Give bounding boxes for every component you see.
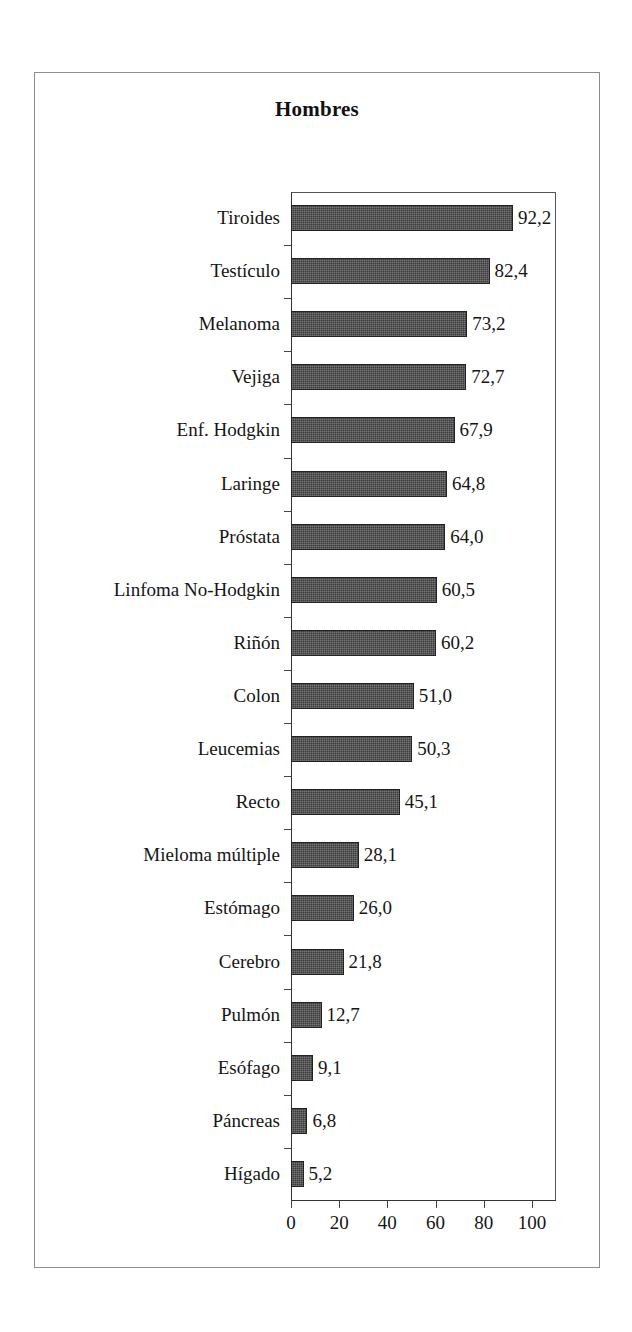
bar-row: Recto45,1 (35, 776, 599, 828)
bar (291, 789, 400, 815)
x-axis-tick-labels: 020406080100 (291, 1212, 556, 1240)
x-axis-tick (532, 1201, 533, 1208)
category-label: Colon (35, 670, 291, 722)
bar-row: Cerebro21,8 (35, 935, 599, 987)
bar-row: Testículo82,4 (35, 245, 599, 297)
bar-row: Laringe64,8 (35, 458, 599, 510)
x-axis-tick (387, 1201, 388, 1208)
bar-track: 9,1 (291, 1042, 556, 1094)
category-label: Enf. Hodgkin (35, 404, 291, 456)
bar-track: 28,1 (291, 829, 556, 881)
bar-row: Esófago9,1 (35, 1042, 599, 1094)
bar-track: 60,2 (291, 617, 556, 669)
x-axis-tick (291, 1201, 292, 1208)
bar-row: Riñón60,2 (35, 617, 599, 669)
category-label: Esófago (35, 1042, 291, 1094)
category-label: Laringe (35, 458, 291, 510)
x-axis-tick (436, 1201, 437, 1208)
bar-value-label: 26,0 (359, 897, 392, 919)
x-axis-tick-label: 100 (518, 1212, 547, 1234)
category-label: Estómago (35, 882, 291, 934)
bar-track: 26,0 (291, 882, 556, 934)
bar (291, 311, 467, 337)
bar-track: 50,3 (291, 723, 556, 775)
bar (291, 1108, 307, 1134)
bar (291, 630, 436, 656)
bar-value-label: 82,4 (495, 260, 528, 282)
bar (291, 417, 455, 443)
bar-value-label: 45,1 (405, 791, 438, 813)
bar-track: 21,8 (291, 935, 556, 987)
bar-value-label: 60,5 (442, 579, 475, 601)
figure-frame: Hombres Tiroides92,2Testículo82,4Melanom… (34, 72, 600, 1268)
bar-track: 5,2 (291, 1148, 556, 1200)
bar-value-label: 6,8 (312, 1110, 336, 1132)
bar-row: Pulmón12,7 (35, 989, 599, 1041)
bar-track: 64,0 (291, 511, 556, 563)
bar-track: 92,2 (291, 192, 556, 244)
bar-row: Próstata64,0 (35, 511, 599, 563)
bar-row: Tiroides92,2 (35, 192, 599, 244)
bar (291, 1161, 304, 1187)
bar-row: Estómago26,0 (35, 882, 599, 934)
x-axis-tick-label: 20 (330, 1212, 349, 1234)
bar-track: 60,5 (291, 564, 556, 616)
category-label: Vejiga (35, 351, 291, 403)
bar-value-label: 51,0 (419, 685, 452, 707)
category-label: Pulmón (35, 989, 291, 1041)
bar (291, 1002, 322, 1028)
x-axis-tick (339, 1201, 340, 1208)
bar (291, 364, 466, 390)
category-label: Hígado (35, 1148, 291, 1200)
bar-value-label: 21,8 (349, 951, 382, 973)
bar-row: Leucemias50,3 (35, 723, 599, 775)
bar-row: Páncreas6,8 (35, 1095, 599, 1147)
bar-value-label: 50,3 (417, 738, 450, 760)
bar-value-label: 64,0 (450, 526, 483, 548)
bar-track: 45,1 (291, 776, 556, 828)
bar (291, 949, 344, 975)
bar (291, 736, 412, 762)
bar (291, 842, 359, 868)
category-label: Testículo (35, 245, 291, 297)
bar-row: Colon51,0 (35, 670, 599, 722)
category-label: Páncreas (35, 1095, 291, 1147)
bar-value-label: 64,8 (452, 473, 485, 495)
bar-track: 6,8 (291, 1095, 556, 1147)
category-label: Cerebro (35, 935, 291, 987)
bar-row: Linfoma No-Hodgkin60,5 (35, 564, 599, 616)
x-axis-ticks (291, 1201, 556, 1209)
bar-track: 64,8 (291, 458, 556, 510)
bar-value-label: 72,7 (471, 366, 504, 388)
x-axis-tick-label: 60 (426, 1212, 445, 1234)
x-axis-tick-label: 40 (378, 1212, 397, 1234)
bar-track: 73,2 (291, 298, 556, 350)
bar-value-label: 28,1 (364, 844, 397, 866)
x-axis-tick-label: 80 (474, 1212, 493, 1234)
category-label: Recto (35, 776, 291, 828)
bar-track: 82,4 (291, 245, 556, 297)
bar (291, 258, 490, 284)
bar-track: 12,7 (291, 989, 556, 1041)
bar-value-label: 9,1 (318, 1057, 342, 1079)
bar-row: Melanoma73,2 (35, 298, 599, 350)
bar (291, 895, 354, 921)
bar-rows: Tiroides92,2Testículo82,4Melanoma73,2Vej… (35, 192, 599, 1201)
bar (291, 205, 513, 231)
chart-title: Hombres (35, 97, 599, 122)
bar-value-label: 60,2 (441, 632, 474, 654)
category-label: Próstata (35, 511, 291, 563)
category-label: Mieloma múltiple (35, 829, 291, 881)
category-label: Riñón (35, 617, 291, 669)
category-label: Linfoma No-Hodgkin (35, 564, 291, 616)
x-axis-tick-label: 0 (286, 1212, 296, 1234)
bar (291, 577, 437, 603)
bar (291, 683, 414, 709)
bar-row: Vejiga72,7 (35, 351, 599, 403)
category-label: Melanoma (35, 298, 291, 350)
bar (291, 1055, 313, 1081)
bar-value-label: 12,7 (327, 1004, 360, 1026)
bar-row: Enf. Hodgkin67,9 (35, 404, 599, 456)
category-label: Tiroides (35, 192, 291, 244)
bar-value-label: 67,9 (460, 419, 493, 441)
